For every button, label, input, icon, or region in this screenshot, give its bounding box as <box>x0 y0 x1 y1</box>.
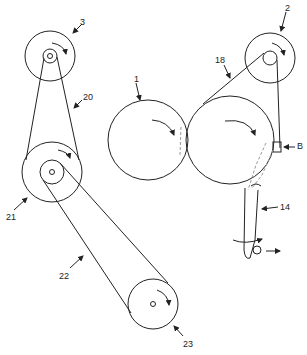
label-14: 14 <box>280 203 290 212</box>
label-22: 22 <box>59 272 69 281</box>
belt-22 <box>43 163 168 313</box>
label-21: 21 <box>6 213 16 222</box>
mechanical-drive-diagram: 3 2 20 18 1 B 14 21 22 23 <box>0 0 307 355</box>
belt-18 <box>203 53 280 148</box>
roller-1 <box>108 100 188 180</box>
lever-14 <box>233 184 280 258</box>
main-drum <box>186 96 274 184</box>
label-20: 20 <box>83 93 93 102</box>
label-3: 3 <box>80 18 85 27</box>
label-23: 23 <box>183 340 193 349</box>
label-2: 2 <box>285 4 290 13</box>
pulley-2 <box>245 33 295 83</box>
pulley-23 <box>128 279 178 329</box>
pulley-3 <box>25 31 75 81</box>
belt-20 <box>26 57 79 160</box>
label-1: 1 <box>134 75 139 84</box>
leader-lines <box>14 12 295 336</box>
hidden-lines <box>180 127 273 190</box>
diagram-drawing <box>0 0 307 355</box>
label-B: B <box>297 142 303 151</box>
label-18: 18 <box>215 56 225 65</box>
